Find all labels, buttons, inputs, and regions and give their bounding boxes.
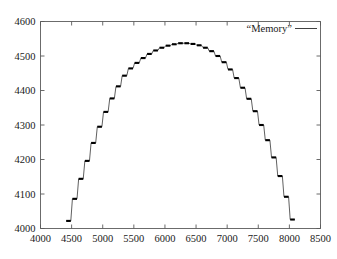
x-tick-label: 4000 <box>30 233 51 244</box>
x-tick-label: 8500 <box>310 233 331 244</box>
chart-background <box>0 0 337 259</box>
y-tick-label: 4100 <box>15 189 36 200</box>
x-tick-label: 5500 <box>123 233 144 244</box>
x-tick-label: 4500 <box>61 233 82 244</box>
x-tick-label: 7500 <box>248 233 269 244</box>
x-tick-label: 6500 <box>186 233 207 244</box>
legend-entry-label: “Memory” <box>247 23 293 34</box>
line-chart-plot: 4000450050005500600065007000750080008500… <box>0 0 337 259</box>
x-tick-label: 8000 <box>279 233 300 244</box>
y-tick-label: 4600 <box>15 16 36 27</box>
chart-container: 4000450050005500600065007000750080008500… <box>0 0 337 259</box>
y-tick-label: 4300 <box>15 120 36 131</box>
x-tick-label: 6000 <box>154 233 175 244</box>
x-tick-label: 5000 <box>92 233 113 244</box>
y-tick-label: 4000 <box>15 223 36 234</box>
x-tick-label: 7000 <box>217 233 238 244</box>
y-tick-label: 4400 <box>15 85 36 96</box>
y-tick-label: 4500 <box>15 51 36 62</box>
y-tick-label: 4200 <box>15 154 36 165</box>
